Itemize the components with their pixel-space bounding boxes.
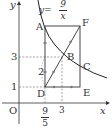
segment-label-2: 2: [38, 67, 44, 77]
curve-denominator: x: [60, 12, 65, 21]
curve-numerator: 9: [60, 0, 66, 9]
dot-diag-2: [69, 41, 71, 43]
curve-label-lhs: y=: [39, 5, 52, 15]
y-axis-arrow-icon: [17, 1, 21, 5]
curve-label-fraction: 9 x: [59, 0, 67, 21]
x-tick-numerator: 9: [42, 107, 48, 116]
origin-label: O: [9, 106, 17, 116]
point-d-label: D: [37, 89, 45, 99]
x-axis-label: x: [100, 106, 106, 116]
x-tick-nine-fifths: 9 5: [41, 107, 49, 128]
y-tick-3: 3: [11, 52, 17, 62]
y-axis-label: y: [10, 0, 16, 10]
diagonal-df: [45, 26, 80, 87]
point-b-label: B: [67, 52, 74, 62]
x-axis-arrow-icon: [106, 101, 110, 105]
x-tick-3: 3: [59, 105, 65, 115]
dot-de-1: [53, 86, 55, 88]
point-f-label: F: [82, 18, 89, 28]
dot-diag-1: [52, 71, 54, 73]
point-e-label: E: [83, 88, 90, 98]
x-tick-denominator: 5: [42, 119, 48, 128]
point-a-label: A: [36, 22, 43, 32]
dot-de-2: [70, 86, 72, 88]
point-c-label: C: [83, 62, 91, 72]
y-tick-1: 1: [11, 82, 17, 92]
